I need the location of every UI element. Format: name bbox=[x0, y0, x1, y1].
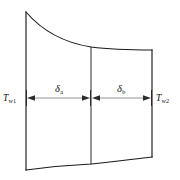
wall-conduction-diagram: δa δb Tw1 Tw2 bbox=[0, 0, 180, 180]
delta-a-label: δa bbox=[55, 83, 63, 95]
right-temperature-subscript: w2 bbox=[162, 97, 170, 104]
left-temperature-subscript: w1 bbox=[9, 97, 17, 104]
delta-b-right-arrowhead-icon bbox=[143, 95, 151, 101]
delta-b-left-arrowhead-icon bbox=[92, 95, 100, 101]
wall-outline-group bbox=[26, 12, 152, 170]
delta-a-subscript: a bbox=[60, 88, 63, 95]
top-boundary-curve bbox=[26, 12, 152, 50]
left-wall-temperature-label: Tw1 bbox=[3, 93, 16, 104]
bottom-boundary-curve bbox=[26, 157, 152, 170]
right-wall-temperature-label: Tw2 bbox=[156, 93, 169, 104]
delta-a-left-arrowhead-icon bbox=[27, 95, 35, 101]
diagram-canvas: δa δb Tw1 Tw2 bbox=[0, 0, 180, 180]
delta-b-label: δb bbox=[117, 83, 125, 95]
delta-a-right-arrowhead-icon bbox=[82, 95, 90, 101]
delta-b-subscript: b bbox=[122, 88, 125, 95]
